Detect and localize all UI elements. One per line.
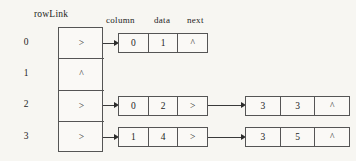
node-row3-1-column: 3: [246, 128, 281, 146]
node-row2-0-data: 2: [149, 97, 179, 115]
rowlink-title: rowLink: [34, 9, 68, 20]
arrow-row2-node0-to-node1: [208, 102, 246, 109]
node-row2-1-next: ^: [315, 97, 349, 115]
arrow-row2-to-node0: [103, 102, 119, 109]
node-row3-1-next: ^: [315, 128, 349, 146]
node-row0-0-data: 1: [149, 34, 179, 52]
rowlink-table: > ^ > >: [58, 27, 103, 152]
row-index-1: 1: [20, 68, 32, 78]
node-row2-0: 0 2 >: [118, 96, 208, 116]
node-row2-0-next: >: [178, 97, 207, 115]
row-index-2: 2: [20, 99, 32, 109]
node-row3-0-next: >: [178, 128, 207, 146]
node-row0-0-next: ^: [178, 34, 207, 52]
node-row3-0: 1 4 >: [118, 127, 208, 147]
node-row3-1: 3 5 ^: [245, 127, 350, 147]
node-row2-1-data: 3: [281, 97, 316, 115]
rowlink-cell-2: >: [59, 91, 104, 122]
node-row2-0-column: 0: [119, 97, 149, 115]
node-row3-0-data: 4: [149, 128, 179, 146]
column-header-data: data: [154, 15, 170, 26]
node-row3-1-data: 5: [281, 128, 316, 146]
node-row3-0-column: 1: [119, 128, 149, 146]
row-index-3: 3: [20, 131, 32, 141]
arrow-row3-node0-to-node1: [208, 134, 246, 141]
row-index-0: 0: [20, 37, 32, 47]
rowlink-cell-1: ^: [59, 59, 104, 90]
rowlink-cell-3: >: [59, 122, 104, 153]
node-row0-0: 0 1 ^: [118, 33, 208, 53]
node-row2-1-column: 3: [246, 97, 281, 115]
column-header-column: column: [106, 15, 135, 26]
arrow-row3-to-node0: [103, 134, 119, 141]
node-row2-1: 3 3 ^: [245, 96, 350, 116]
node-row0-0-column: 0: [119, 34, 149, 52]
arrow-row0-to-node0: [103, 40, 119, 47]
column-header-next: next: [187, 15, 204, 26]
rowlink-cell-0: >: [59, 28, 104, 59]
sparse-matrix-linked-list-diagram: rowLink column data next 0 1 2 3 > ^ > >…: [0, 0, 356, 161]
